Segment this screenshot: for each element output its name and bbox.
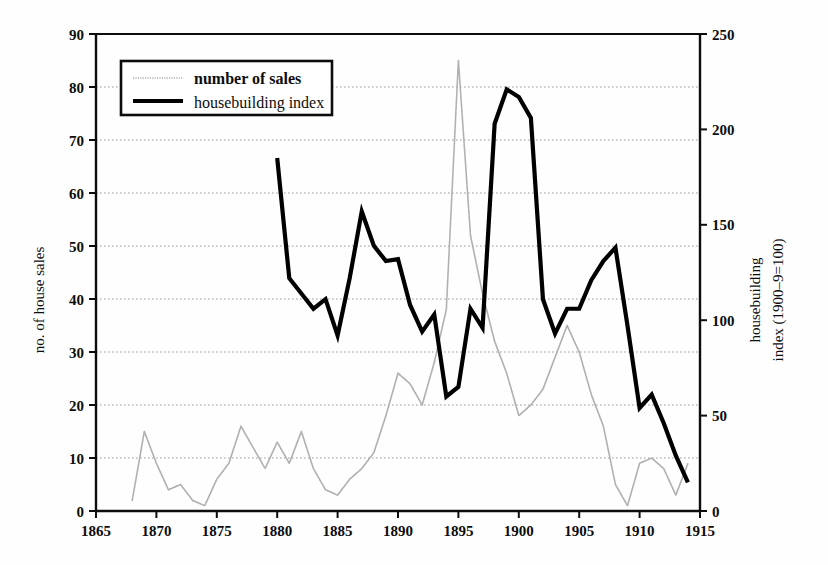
bottom-tick-label-1890: 1890 [383,523,413,539]
left-tick-label-0: 0 [77,504,85,520]
left-tick-label-10: 10 [69,451,84,467]
right-tick-label-0: 0 [712,504,720,520]
bottom-tick-label-1905: 1905 [564,523,594,539]
right-tick-label-50: 50 [712,408,727,424]
left-tick-label-40: 40 [69,292,84,308]
legend: number of sales housebuilding index [121,61,332,115]
left-tick-label-90: 90 [69,27,84,43]
chart-figure: 0102030405060708090 050100150200250 1865… [0,0,828,565]
right-tick-label-250: 250 [712,27,735,43]
left-tick-label-20: 20 [69,398,84,414]
bottom-tick-label-1910: 1910 [625,523,655,539]
bottom-tick-label-1865: 1865 [81,523,111,539]
right-tick-label-200: 200 [712,122,735,138]
house-sales-housebuilding-chart: 0102030405060708090 050100150200250 1865… [0,0,828,565]
bottom-tick-label-1870: 1870 [141,523,171,539]
left-tick-label-30: 30 [69,345,84,361]
bottom-tick-label-1880: 1880 [262,523,292,539]
chart-page: 0102030405060708090 050100150200250 1865… [0,0,828,565]
right-tick-label-100: 100 [712,313,735,329]
bottom-tick-label-1915: 1915 [685,523,715,539]
right-tick-label-150: 150 [712,217,735,233]
bottom-tick-label-1900: 1900 [504,523,534,539]
left-tick-label-70: 70 [69,133,84,149]
left-tick-label-50: 50 [69,239,84,255]
left-axis-title: no. of house sales [31,247,47,354]
left-tick-label-80: 80 [69,80,84,96]
left-tick-label-60: 60 [69,186,84,202]
legend-label-number-of-sales: number of sales [194,70,301,87]
right-axis-title-line1: housebuilding [747,257,763,342]
right-axis-title-line2: index (1900–9=100) [770,238,787,361]
bottom-tick-label-1885: 1885 [323,523,353,539]
bottom-tick-label-1895: 1895 [443,523,473,539]
bottom-tick-label-1875: 1875 [202,523,232,539]
legend-label-housebuilding-index: housebuilding index [194,94,324,112]
